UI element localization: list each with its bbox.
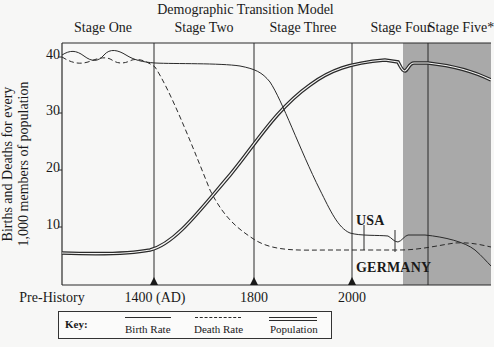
legend-birth-rate: Birth Rate (125, 323, 171, 335)
germany-label: GERMANY (356, 260, 431, 276)
population-swatch (269, 317, 317, 321)
usa-label: USA (356, 213, 385, 229)
birth-rate-swatch (125, 317, 171, 318)
legend: Key: Birth Rate Death Rate Population (58, 311, 332, 339)
death-rate-swatch (195, 317, 241, 318)
legend-key-label: Key: (65, 318, 88, 330)
y-tick-40: 40 (46, 47, 60, 63)
legend-population: Population (270, 323, 318, 335)
legend-death-rate: Death Rate (194, 323, 243, 335)
x-tick-prehistory: Pre-History (19, 290, 84, 306)
y-tick-20: 20 (46, 160, 60, 176)
x-tick-markers (150, 277, 356, 285)
y-tick-30: 30 (46, 103, 60, 119)
x-tick-2000: 2000 (338, 290, 366, 306)
stage-dividers (154, 43, 428, 285)
y-tick-10: 10 (46, 217, 60, 233)
x-tick-1800: 1800 (240, 290, 268, 306)
x-tick-1400: 1400 (AD) (124, 290, 185, 306)
